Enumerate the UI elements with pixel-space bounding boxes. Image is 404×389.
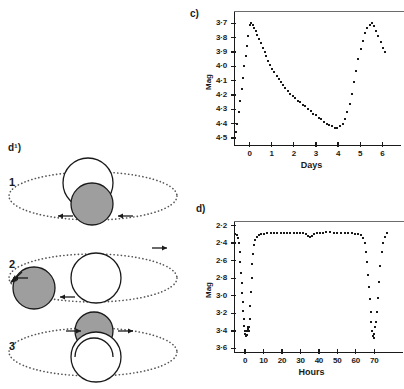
data-point: [322, 232, 324, 234]
y-tick-label-0: 2·2: [209, 221, 227, 230]
data-point: [386, 232, 388, 234]
y-tick-label-1: 3·8: [209, 33, 227, 42]
data-point: [299, 232, 301, 234]
data-point: [378, 281, 380, 283]
data-point: [379, 265, 381, 267]
data-point: [381, 251, 383, 253]
data-point: [238, 242, 240, 244]
stage-number-2: 2: [9, 258, 15, 270]
data-point: [262, 47, 264, 49]
x-tick-label-4: 40: [310, 356, 328, 365]
y-tick-2: [231, 51, 236, 52]
x-tick-label-2: 2: [285, 149, 303, 158]
y-tick-0: [231, 225, 236, 226]
data-point: [255, 30, 257, 32]
y-tick-label-7: 3·6: [209, 343, 227, 352]
data-point: [278, 78, 280, 80]
data-point: [319, 232, 321, 234]
orbit-stage-2: [9, 245, 177, 309]
x-tick-label-7: 70: [365, 356, 383, 365]
data-point: [364, 242, 366, 244]
data-point: [283, 232, 285, 234]
x-tick-2: [281, 349, 282, 354]
y-tick-4: [231, 80, 236, 81]
motion-arrow-head-1-1: [118, 213, 123, 218]
data-point: [241, 292, 243, 294]
data-point: [254, 239, 256, 241]
light-curve-chart-days: 3·73·83·94·04·14·24·34·44·5Mag0123456Day…: [196, 0, 404, 185]
data-point: [250, 291, 252, 293]
data-point: [382, 47, 384, 49]
data-point: [347, 232, 349, 234]
x-axis-title: Hours: [234, 367, 389, 377]
y-tick-7: [231, 348, 236, 349]
data-point: [276, 232, 278, 234]
data-point: [366, 27, 368, 29]
data-point: [316, 232, 318, 234]
data-point: [247, 35, 249, 37]
data-point: [349, 103, 351, 105]
data-point: [364, 32, 366, 34]
data-point: [380, 41, 382, 43]
y-tick-label-7: 4·4: [209, 119, 227, 128]
y-tick-label-5: 3·2: [209, 308, 227, 317]
y-tick-6: [231, 109, 236, 110]
data-point: [377, 35, 379, 37]
data-point: [374, 326, 376, 328]
data-point: [351, 93, 353, 95]
data-point: [368, 286, 370, 288]
x-tick-7: [374, 349, 375, 354]
data-point: [258, 38, 260, 40]
data-point: [289, 93, 291, 95]
y-tick-label-1: 2·4: [209, 238, 227, 247]
data-point: [284, 87, 286, 89]
data-point: [369, 298, 371, 300]
y-axis-title: Mag: [204, 282, 213, 298]
y-tick-label-5: 4·2: [209, 90, 227, 99]
data-point: [239, 261, 241, 263]
data-point: [370, 311, 372, 313]
data-point: [365, 251, 367, 253]
data-point: [265, 55, 267, 57]
y-tick-3: [231, 66, 236, 67]
motion-arrow-head-3-1: [128, 328, 133, 333]
data-point: [236, 123, 238, 125]
data-point: [375, 30, 377, 32]
y-tick-6: [231, 330, 236, 331]
data-point: [252, 24, 254, 26]
data-point: [242, 77, 244, 79]
data-point: [238, 111, 240, 113]
x-tick-0: [249, 142, 250, 147]
data-point: [293, 232, 295, 234]
y-tick-label-0: 3·7: [209, 18, 227, 27]
data-point: [325, 231, 327, 233]
data-point: [246, 45, 248, 47]
data-point: [269, 64, 271, 66]
data-point: [339, 125, 341, 127]
y-tick-8: [231, 137, 236, 138]
data-point: [304, 105, 306, 107]
data-point: [373, 333, 375, 335]
data-point: [256, 236, 258, 238]
x-tick-1: [271, 142, 272, 147]
light-curve-chart-hours: 2·22·42·62·83·03·23·43·6Mag0102030405060…: [196, 196, 404, 389]
motion-arrow-head-2-2: [162, 245, 167, 250]
secondary-star-2: [13, 267, 55, 309]
data-point: [310, 110, 312, 112]
y-axis-line: [234, 12, 235, 146]
data-point: [239, 100, 241, 102]
y-tick-label-3: 2·8: [209, 273, 227, 282]
data-point: [260, 42, 262, 44]
y-tick-label-6: 4·3: [209, 104, 227, 113]
data-point: [253, 27, 255, 29]
y-tick-7: [231, 123, 236, 124]
y-tick-label-2: 3·9: [209, 47, 227, 56]
data-point: [282, 84, 284, 86]
data-point: [270, 232, 272, 234]
secondary-star-1: [71, 183, 113, 225]
data-point: [289, 232, 291, 234]
data-point: [241, 88, 243, 90]
data-point: [248, 330, 250, 332]
orbit-stage-3: [9, 312, 177, 382]
data-point: [354, 233, 356, 235]
